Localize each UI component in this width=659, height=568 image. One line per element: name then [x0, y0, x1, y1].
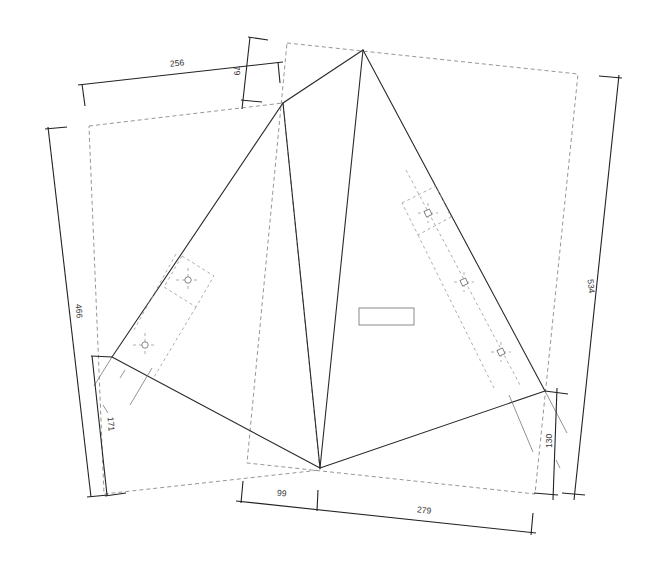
- roof-ridges: [112, 50, 545, 468]
- left-ridge-outer: [112, 50, 363, 357]
- right-extension-line-2: [509, 395, 533, 452]
- dim-bottom-left: 99: [277, 488, 288, 499]
- extension-lines: [94, 357, 567, 468]
- right-outline-rect: [247, 43, 578, 494]
- center-box: [359, 308, 414, 325]
- left-fixture-strip: [133, 254, 214, 377]
- left-tick-2: [103, 405, 108, 413]
- left-extension-line-2: [130, 368, 152, 405]
- eave-left-bottom: [112, 357, 320, 468]
- left-outline-rect: [89, 103, 320, 494]
- vent-icon: [491, 342, 511, 362]
- right-ridge-outer: [363, 50, 545, 391]
- dimension-top: 256: [78, 57, 283, 106]
- dashed-outline-group: [89, 43, 578, 494]
- dim-right-height: 534: [586, 279, 597, 294]
- left-strip-edge: [154, 307, 196, 377]
- right-strip-edge: [418, 235, 494, 388]
- dim-left-lower: 171: [105, 416, 116, 431]
- dimension-left: 466: [45, 127, 108, 497]
- left-extension-line: [94, 357, 112, 386]
- left-strip-centerline: [134, 254, 176, 330]
- dim-top-offset: 79: [232, 65, 243, 76]
- dim-right-lower: 130: [544, 434, 554, 448]
- vent-icon: [454, 272, 474, 292]
- right-tick: [556, 460, 560, 468]
- right-fixture-strip: [402, 170, 520, 388]
- left-tick: [120, 370, 125, 378]
- dimension-right-lower: 130: [534, 388, 568, 500]
- roof-plan-drawing: 256 79 466 171 534 130 99 279: [0, 0, 659, 568]
- vent-icon: [418, 203, 438, 223]
- ridge-peak-center: [320, 50, 363, 468]
- dimension-top-offset: 79: [232, 37, 268, 109]
- ridge-left-center: [283, 103, 320, 468]
- vent-icon: [176, 268, 200, 292]
- dim-bottom-right: 279: [417, 504, 432, 515]
- dim-left-height: 466: [73, 303, 84, 318]
- vent-icon: [133, 333, 157, 357]
- eave-right-bottom: [320, 391, 545, 468]
- dim-top-width: 256: [169, 57, 184, 68]
